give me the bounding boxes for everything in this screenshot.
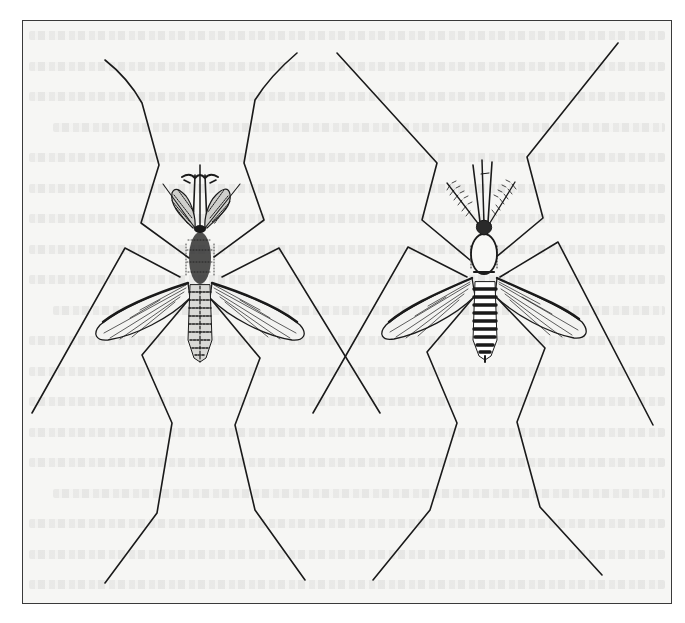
right-mosquito	[313, 43, 653, 580]
left-mosquito-thorax	[186, 232, 214, 284]
right-mosquito-head	[447, 160, 516, 235]
left-mosquito-abdomen	[188, 285, 212, 362]
right-mosquito-thorax	[471, 234, 497, 274]
mosquito-illustration	[0, 0, 685, 623]
left-mosquito	[32, 53, 380, 583]
right-mosquito-abdomen	[473, 282, 497, 362]
left-mosquito-head	[163, 165, 240, 233]
